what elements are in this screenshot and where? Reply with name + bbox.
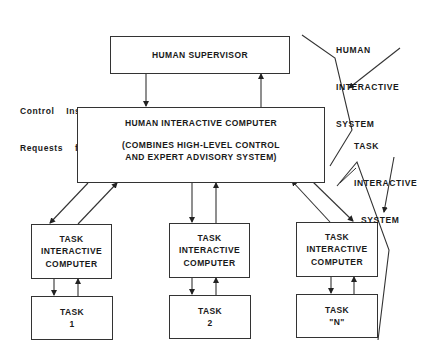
task-1-box: TASK 1 — [31, 296, 113, 340]
human-supervisor-box: HUMAN SUPERVISOR — [110, 36, 290, 74]
hic-subtitle-1: (COMBINES HIGH-LEVEL CONTROL — [122, 139, 280, 151]
task-2-box: TASK 2 — [169, 295, 251, 339]
human-supervisor-label: HUMAN SUPERVISOR — [152, 49, 248, 61]
task-interactive-computer-2: TASK INTERACTIVE COMPUTER — [169, 223, 250, 278]
hic-subtitle-2: AND EXPERT ADVISORY SYSTEM) — [125, 151, 277, 163]
task-interactive-system-label: TASK INTERACTIVE SYSTEM — [354, 115, 417, 238]
task-interactive-computer-1: TASK INTERACTIVE COMPUTER — [31, 224, 112, 279]
task-n-box: TASK "N" — [296, 294, 378, 338]
hic-title: HUMAN INTERACTIVE COMPUTER — [125, 117, 277, 129]
human-interactive-computer-box: HUMAN INTERACTIVE COMPUTER (COMBINES HIG… — [77, 107, 325, 183]
